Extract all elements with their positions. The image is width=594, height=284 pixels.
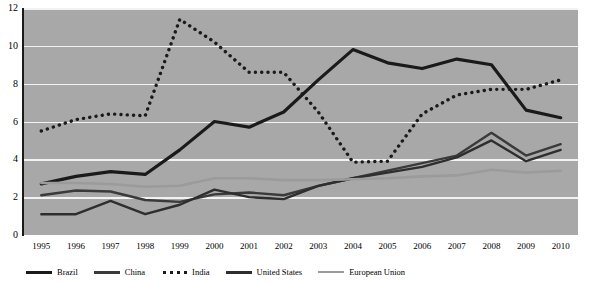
- legend-item-united-states[interactable]: United States: [226, 267, 303, 278]
- gridline: [24, 159, 578, 161]
- gridline: [24, 46, 578, 48]
- legend-item-brazil[interactable]: Brazil: [26, 267, 78, 278]
- gridline: [24, 122, 578, 124]
- legend-swatch-icon: [318, 267, 344, 278]
- y-tick-label: 8: [0, 79, 18, 89]
- gridline: [24, 8, 578, 10]
- y-tick-label: 0: [0, 230, 18, 240]
- plot-area: [24, 8, 578, 235]
- x-tick-label: 2010: [541, 241, 581, 251]
- legend-item-india[interactable]: India: [161, 267, 209, 278]
- legend-label: China: [125, 268, 145, 277]
- legend-item-european-union[interactable]: European Union: [318, 267, 405, 278]
- y-tick-label: 4: [0, 154, 18, 164]
- y-tick-label: 12: [0, 3, 18, 13]
- y-axis-line: [22, 8, 24, 236]
- legend-item-china[interactable]: China: [94, 267, 145, 278]
- gridline: [24, 197, 578, 199]
- chart-legend: BrazilChinaIndiaUnited StatesEuropean Un…: [0, 262, 594, 282]
- legend-swatch-icon: [226, 267, 252, 278]
- y-tick-label: 10: [0, 41, 18, 51]
- y-tick-label: 2: [0, 192, 18, 202]
- legend-label: United States: [257, 268, 303, 277]
- line-chart: 12 10 8 6 4 2 0 199519961997199819992000…: [0, 0, 594, 284]
- y-tick-label: 6: [0, 117, 18, 127]
- legend-swatch-icon: [26, 267, 52, 278]
- legend-swatch-icon: [94, 267, 120, 278]
- gridline: [24, 84, 578, 86]
- legend-label: India: [192, 268, 209, 277]
- legend-swatch-icon: [161, 267, 187, 278]
- legend-label: European Union: [349, 268, 405, 277]
- legend-label: Brazil: [57, 268, 78, 277]
